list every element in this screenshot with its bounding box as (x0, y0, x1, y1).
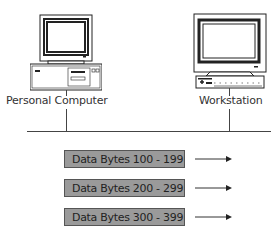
workstation-icon (192, 12, 268, 92)
arrow-right-icon (195, 184, 233, 192)
packet-box: Data Bytes 200 - 299 (64, 179, 185, 197)
pc-label: Personal Computer (6, 94, 108, 107)
packet-box: Data Bytes 300 - 399 (64, 208, 185, 226)
packet-box: Data Bytes 100 - 199 (64, 150, 185, 168)
desktop-computer-icon (30, 12, 102, 92)
ws-label: Workstation (199, 94, 263, 107)
network-bus-line (27, 131, 271, 132)
arrow-right-icon (195, 213, 233, 221)
ws-stem (229, 109, 230, 131)
arrow-right-icon (195, 155, 233, 163)
pc-stem (66, 109, 67, 131)
